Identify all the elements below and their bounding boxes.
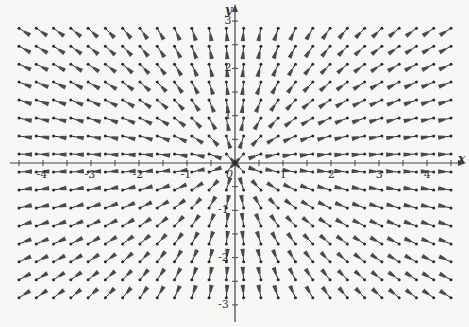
vector-arrow [387,236,401,245]
vector-arrow [156,99,169,110]
vector-arrow [18,45,32,55]
vector-arrow [321,27,332,40]
vector-arrow [283,135,297,144]
vector-arrow [439,272,453,282]
vector-arrow [173,198,186,209]
vector-arrow [353,63,366,74]
vector-arrow [52,81,66,90]
vector-arrow [351,169,366,174]
vector-arrow [334,117,348,125]
vector-arrow [173,117,186,128]
vector-arrow [18,203,33,209]
vector-arrow [287,250,297,264]
vector-arrow [285,215,297,227]
vector-arrow [87,253,100,264]
vector-arrow [265,153,280,159]
vector-arrow [241,45,246,60]
vector-arrow [304,45,314,59]
vector-arrow [250,179,262,191]
vector-arrow [268,117,280,129]
vector-arrow [271,63,280,77]
vector-arrow [87,63,100,74]
x-tick-label: 0 [226,169,233,180]
vector-arrow [190,249,199,263]
vector-arrow [69,236,83,245]
vector-arrow [104,252,117,263]
vector-arrow [421,254,435,263]
vector-arrow [369,81,383,91]
vector-arrow [421,271,435,281]
y-tick-label: 2 [225,62,232,73]
vector-arrow [266,181,280,191]
vector-arrow [35,99,50,107]
vector-arrow [18,27,32,37]
vector-arrow [336,252,349,264]
vector-arrow [225,27,230,42]
vector-arrow [351,135,366,141]
y-tick-label: -3 [218,299,229,310]
vector-arrow [208,213,216,227]
vector-arrow [256,45,262,60]
vector-arrow [156,81,168,93]
vector-arrow [300,184,314,192]
y-axis-label: y [225,4,232,16]
vector-arrow [334,135,349,142]
vector-arrow [317,184,332,191]
vector-arrow [18,254,32,263]
vector-arrow [319,234,332,246]
vector-arrow [248,153,262,161]
vector-arrow [138,27,149,40]
vector-arrow [369,99,383,108]
vector-arrow [254,99,262,113]
vector-arrow [208,135,220,147]
vector-arrow [18,99,33,106]
vector-arrow [35,271,49,281]
vector-arrow [421,152,436,156]
vector-arrow [173,267,182,281]
vector-arrow [190,285,198,300]
vector-arrow [18,186,33,191]
vector-arrow [300,199,314,209]
vector-arrow [138,268,149,281]
vector-arrow [52,203,67,210]
vector-arrow [121,201,135,209]
vector-arrow [335,99,349,109]
vector-arrow [52,45,66,55]
vector-arrow [272,45,280,59]
vector-arrow [208,117,218,131]
vector-arrow [69,253,83,263]
vector-arrow [18,63,32,72]
vector-arrow [121,63,134,75]
vector-arrow [405,27,418,38]
vector-arrow [173,63,183,77]
vector-arrow [104,99,118,108]
vector-arrow [190,181,204,191]
vector-arrow [319,81,332,93]
vector-arrow [304,27,314,41]
vector-arrow [334,169,349,174]
vector-arrow [302,81,314,93]
vector-arrow [388,288,401,300]
vector-arrow [69,45,82,56]
vector-arrow [35,135,50,140]
vector-arrow [52,117,67,124]
vector-arrow [438,99,453,106]
y-tick-label: 1 [225,110,232,121]
vector-arrow [190,167,205,173]
vector-arrow [421,220,436,228]
vector-arrow [256,267,262,282]
vector-arrow [438,169,453,173]
vector-arrow [352,117,366,125]
vector-arrow [303,250,314,263]
vector-arrow [18,152,33,156]
vector-arrow [156,27,166,41]
vector-arrow [421,45,435,55]
vector-arrow [87,185,102,191]
vector-arrow [69,169,84,173]
vector-arrow [354,45,367,57]
vector-arrow [422,27,435,38]
vector-arrow [239,117,245,132]
vector-arrow [190,45,198,59]
vector-arrow [225,267,230,282]
x-tick-label: 4 [424,169,431,180]
